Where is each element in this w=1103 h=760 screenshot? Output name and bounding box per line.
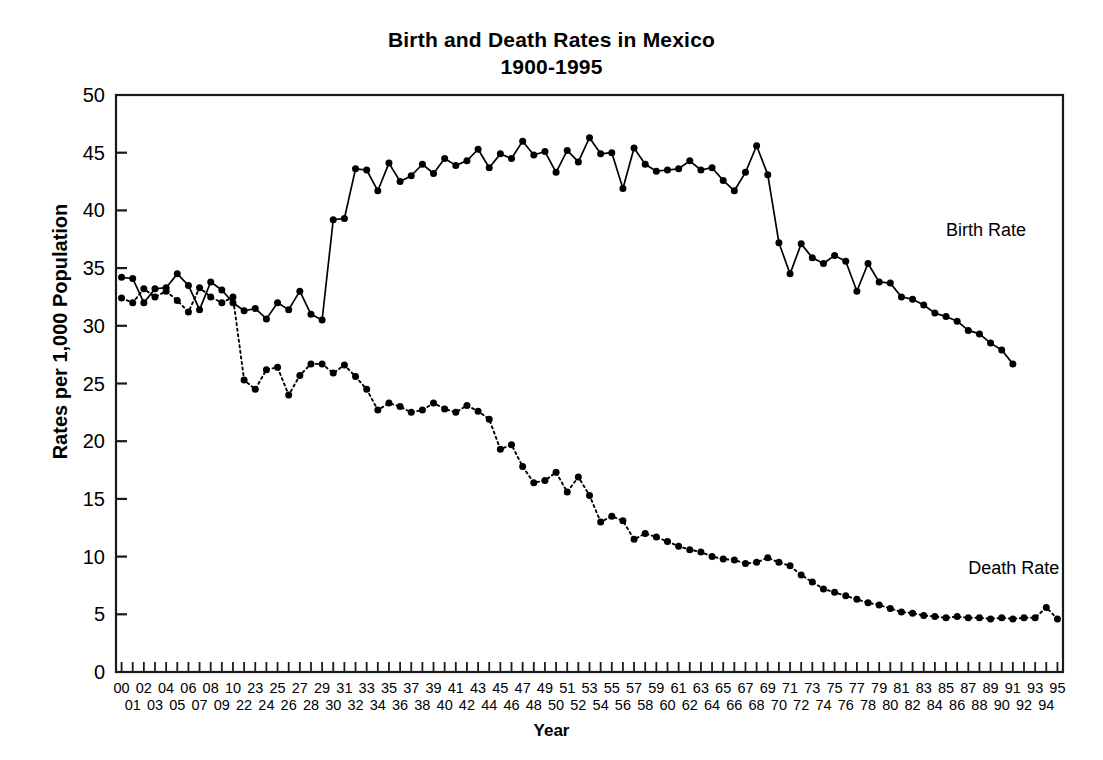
x-tick-label: 33 xyxy=(355,680,379,696)
x-tick-label: 70 xyxy=(767,697,791,713)
data-point xyxy=(675,543,682,550)
data-point xyxy=(1021,614,1028,621)
data-point xyxy=(218,287,225,294)
x-tick-label: 90 xyxy=(990,697,1014,713)
data-point xyxy=(575,158,582,165)
x-tick-label: 45 xyxy=(488,680,512,696)
data-point xyxy=(140,285,147,292)
data-point xyxy=(441,405,448,412)
data-point xyxy=(775,239,782,246)
data-point xyxy=(731,557,738,564)
x-tick-label: 69 xyxy=(756,680,780,696)
data-point xyxy=(452,162,459,169)
data-point xyxy=(508,155,515,162)
x-tick-label: 39 xyxy=(422,680,446,696)
x-tick-label: 86 xyxy=(945,697,969,713)
x-tick-label: 48 xyxy=(522,697,546,713)
data-point xyxy=(374,407,381,414)
data-point xyxy=(675,165,682,172)
data-point xyxy=(352,373,359,380)
data-point xyxy=(775,559,782,566)
x-tick-label: 04 xyxy=(154,680,178,696)
x-tick-label: 10 xyxy=(221,680,245,696)
data-point xyxy=(475,146,482,153)
data-point xyxy=(541,148,548,155)
data-point xyxy=(319,360,326,367)
x-tick-label: 30 xyxy=(321,697,345,713)
data-point xyxy=(787,562,794,569)
x-tick-label: 02 xyxy=(132,680,156,696)
data-point xyxy=(241,377,248,384)
data-point xyxy=(608,149,615,156)
y-tick-label: 35 xyxy=(59,258,105,278)
chart-figure: Birth and Death Rates in Mexico 1900-199… xyxy=(0,0,1103,760)
data-point xyxy=(742,169,749,176)
data-point xyxy=(430,170,437,177)
data-point xyxy=(441,155,448,162)
data-point xyxy=(196,284,203,291)
data-point xyxy=(151,285,158,292)
data-point xyxy=(943,313,950,320)
data-point xyxy=(865,599,872,606)
data-point xyxy=(330,370,337,377)
data-point xyxy=(586,492,593,499)
data-point xyxy=(263,315,270,322)
x-tick-label: 85 xyxy=(934,680,958,696)
birth-rate-label: Birth Rate xyxy=(946,220,1026,241)
x-tick-label: 71 xyxy=(778,680,802,696)
x-tick-label: 42 xyxy=(455,697,479,713)
data-point xyxy=(642,530,649,537)
data-point xyxy=(931,310,938,317)
data-point xyxy=(909,610,916,617)
data-point xyxy=(831,252,838,259)
x-axis-title: Year xyxy=(0,721,1103,741)
data-point xyxy=(920,612,927,619)
data-point xyxy=(976,330,983,337)
x-tick-label: 80 xyxy=(878,697,902,713)
data-point xyxy=(1009,615,1016,622)
x-tick-label: 75 xyxy=(823,680,847,696)
x-tick-label: 51 xyxy=(555,680,579,696)
data-point xyxy=(1043,604,1050,611)
data-point xyxy=(463,402,470,409)
data-point xyxy=(720,177,727,184)
x-tick-label: 95 xyxy=(1045,680,1069,696)
x-tick-label: 66 xyxy=(722,697,746,713)
data-point xyxy=(998,347,1005,354)
data-point xyxy=(241,307,248,314)
x-tick-label: 37 xyxy=(399,680,423,696)
x-tick-label: 47 xyxy=(511,680,535,696)
x-tick-label: 64 xyxy=(700,697,724,713)
data-point xyxy=(508,441,515,448)
data-point xyxy=(475,408,482,415)
x-tick-label: 92 xyxy=(1012,697,1036,713)
data-point xyxy=(597,150,604,157)
data-point xyxy=(631,145,638,152)
x-tick-label: 77 xyxy=(845,680,869,696)
data-point xyxy=(820,260,827,267)
data-point xyxy=(909,296,916,303)
data-point xyxy=(575,473,582,480)
data-point xyxy=(285,306,292,313)
data-point xyxy=(943,614,950,621)
data-point xyxy=(831,589,838,596)
x-tick-label: 09 xyxy=(210,697,234,713)
x-tick-label: 91 xyxy=(1001,680,1025,696)
x-tick-label: 89 xyxy=(979,680,1003,696)
data-point xyxy=(564,488,571,495)
data-point xyxy=(709,553,716,560)
x-tick-label: 60 xyxy=(655,697,679,713)
data-point xyxy=(931,613,938,620)
y-tick-label: 50 xyxy=(59,85,105,105)
data-point xyxy=(787,270,794,277)
x-tick-label: 22 xyxy=(232,697,256,713)
data-point xyxy=(207,293,214,300)
data-point xyxy=(686,157,693,164)
y-tick-label: 0 xyxy=(59,662,105,682)
data-point xyxy=(486,164,493,171)
x-tick-label: 94 xyxy=(1034,697,1058,713)
x-tick-label: 93 xyxy=(1023,680,1047,696)
data-point xyxy=(419,407,426,414)
data-point xyxy=(497,150,504,157)
data-point xyxy=(920,302,927,309)
